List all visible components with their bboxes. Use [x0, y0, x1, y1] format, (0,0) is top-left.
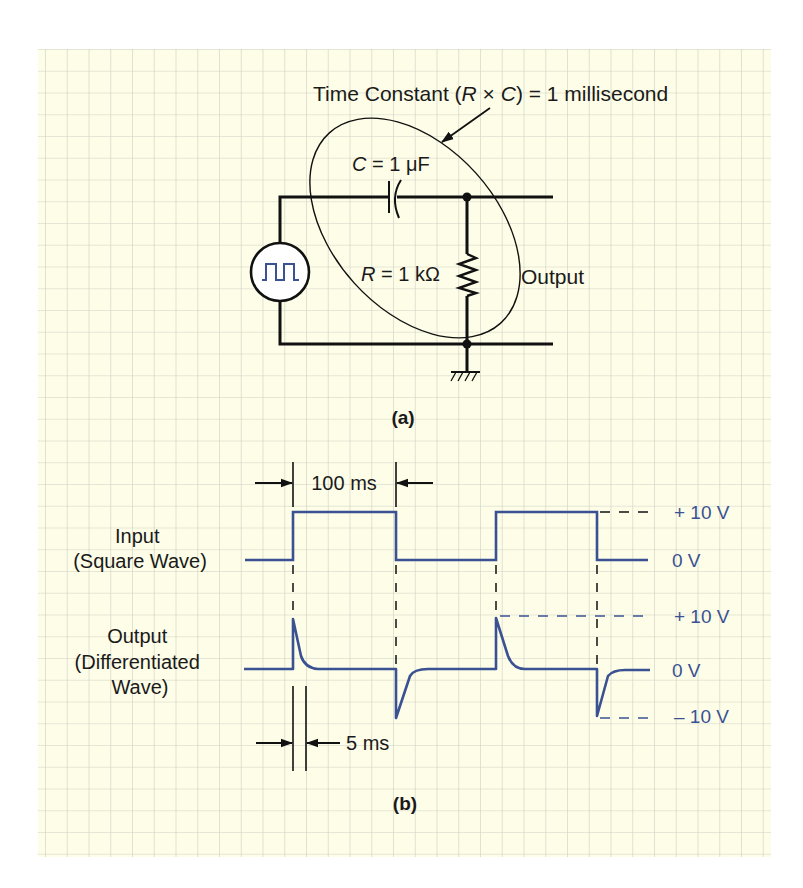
capacitor-label: C = 1 μF	[352, 153, 430, 175]
decay-time-label: 5 ms	[346, 732, 389, 754]
resistor-label: R = 1 kΩ	[361, 263, 440, 285]
period-label: 100 ms	[311, 472, 377, 494]
input-high-level-label: + 10 V	[674, 502, 730, 523]
output-high-level-label: + 10 V	[674, 606, 730, 627]
output-low-level-label: – 10 V	[674, 706, 729, 727]
time-constant-label: Time Constant (R × C) = 1 millisecond	[313, 82, 668, 105]
caption-a: (a)	[391, 407, 414, 428]
output-zero-level-label: 0 V	[672, 660, 701, 681]
caption-b: (b)	[393, 793, 417, 814]
square-wave-source-icon	[251, 243, 309, 301]
top-junction-dot	[463, 193, 472, 202]
bottom-junction-dot	[463, 340, 472, 349]
output-terminal-label: Output	[521, 265, 584, 288]
input-low-level-label: 0 V	[672, 550, 701, 571]
rc-differentiator-figure: Time Constant (R × C) = 1 millisecond C …	[0, 0, 803, 888]
